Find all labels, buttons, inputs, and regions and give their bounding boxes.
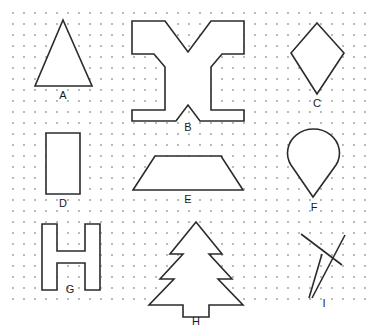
- shape-h-outline: [149, 222, 243, 317]
- shape-label-d: D: [59, 197, 67, 209]
- shape-label-h: H: [192, 315, 200, 327]
- shape-i-open-stick-figure[interactable]: I: [301, 234, 345, 309]
- shapes-layer: ABCDEFGHI: [0, 0, 376, 335]
- shape-e-outline: [133, 156, 243, 190]
- shape-d-outline: [46, 133, 80, 194]
- shape-f-teardrop[interactable]: F: [288, 129, 340, 213]
- shape-label-e: E: [184, 193, 191, 205]
- shape-c-kite[interactable]: C: [291, 23, 344, 109]
- shape-label-g: G: [66, 283, 75, 295]
- shape-i-segment: [312, 235, 345, 298]
- shape-g-outline: [42, 224, 100, 290]
- shape-label-a: A: [59, 89, 67, 101]
- shape-f-outline: [288, 129, 340, 197]
- shape-a-outline: [35, 20, 92, 86]
- shape-b-outline: [132, 21, 244, 121]
- shape-worksheet: ABCDEFGHI: [0, 0, 376, 335]
- shape-b-cross-x-shape[interactable]: B: [132, 21, 244, 133]
- shape-label-c: C: [313, 97, 321, 109]
- shape-d-rectangle[interactable]: D: [46, 133, 80, 209]
- shape-a-triangle[interactable]: A: [35, 20, 92, 101]
- shape-g-letter-h-shape[interactable]: G: [42, 224, 100, 295]
- shape-i-segment: [301, 234, 342, 265]
- shape-c-outline: [291, 23, 344, 94]
- shape-label-b: B: [184, 121, 191, 133]
- shape-label-i: I: [322, 297, 325, 309]
- shape-e-trapezoid[interactable]: E: [133, 156, 243, 205]
- shape-label-f: F: [311, 201, 318, 213]
- shape-h-christmas-tree[interactable]: H: [149, 222, 243, 327]
